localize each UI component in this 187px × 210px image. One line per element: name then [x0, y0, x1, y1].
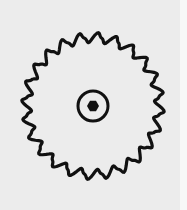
- arbor-hole: [87, 101, 99, 111]
- saw-blade-illustration: [0, 0, 187, 210]
- image-canvas: [0, 0, 180, 210]
- right-margin-strip: [180, 0, 187, 210]
